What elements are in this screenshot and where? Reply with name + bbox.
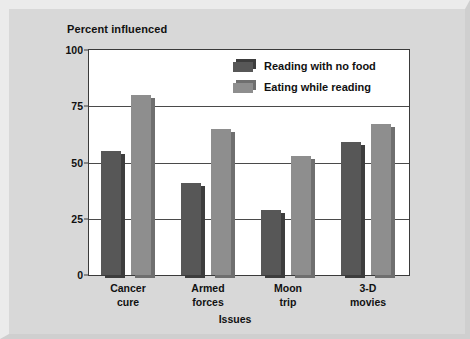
x-axis-category-label: Armedforces — [168, 282, 248, 309]
y-tick-label: 50 — [71, 157, 83, 169]
legend-label: Eating while reading — [264, 81, 371, 93]
y-tick-mark — [84, 275, 89, 276]
y-axis-title: Percent influenced — [67, 23, 167, 35]
bar-fill — [341, 142, 361, 275]
chart-figure: Percent influenced 0255075100 Cancercure… — [0, 0, 470, 339]
y-tick-mark — [84, 50, 89, 51]
bar-fill — [371, 124, 391, 275]
bar-fill — [181, 183, 201, 275]
bar-fill — [261, 210, 281, 275]
legend-swatch-icon — [233, 80, 256, 93]
bar-fill — [211, 129, 231, 275]
bar — [101, 151, 121, 275]
x-axis-category-label: Cancercure — [88, 282, 168, 309]
y-tick-mark — [84, 218, 89, 219]
x-axis-title: Issues — [0, 313, 470, 325]
y-tick-mark — [84, 162, 89, 163]
bar — [131, 95, 151, 275]
chart-legend: Reading with no foodEating while reading — [233, 55, 376, 97]
bar — [181, 183, 201, 275]
legend-swatch-icon — [233, 59, 256, 72]
bar-fill — [131, 95, 151, 275]
bar — [341, 142, 361, 275]
x-axis-category-label: Moontrip — [248, 282, 328, 309]
bar — [211, 129, 231, 275]
legend-item: Eating while reading — [233, 76, 376, 97]
bar — [291, 156, 311, 275]
y-tick-label: 0 — [77, 269, 83, 281]
y-tick-label: 75 — [71, 100, 83, 112]
legend-item: Reading with no food — [233, 55, 376, 76]
y-tick-label: 25 — [71, 213, 83, 225]
legend-label: Reading with no food — [264, 60, 376, 72]
y-tick-mark — [84, 106, 89, 107]
bar-fill — [101, 151, 121, 275]
y-tick-label: 100 — [65, 44, 83, 56]
bar — [371, 124, 391, 275]
bar — [261, 210, 281, 275]
bar-fill — [291, 156, 311, 275]
x-axis-category-label: 3-Dmovies — [328, 282, 408, 309]
